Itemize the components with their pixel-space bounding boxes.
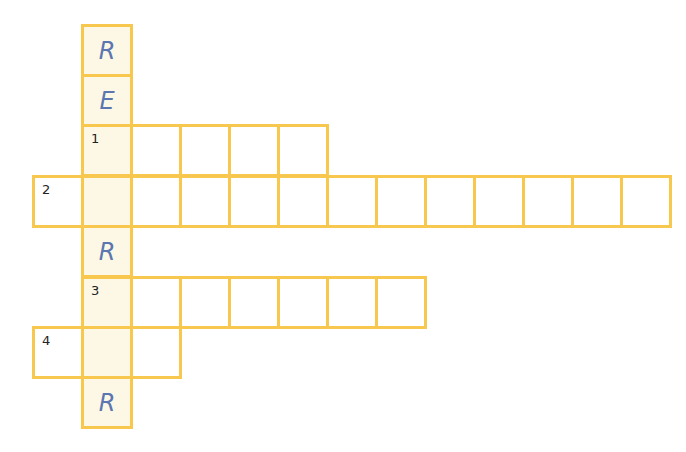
- given-letter: R: [84, 379, 130, 426]
- answer-cell[interactable]: [130, 326, 182, 379]
- given-letter: R: [84, 228, 130, 275]
- answer-cell[interactable]: [326, 276, 378, 329]
- key-column-cell[interactable]: 1: [81, 124, 133, 177]
- key-column-cell[interactable]: R: [81, 225, 133, 278]
- given-letter: E: [84, 77, 130, 124]
- answer-cell[interactable]: 2: [32, 175, 84, 228]
- answer-cell[interactable]: [424, 175, 476, 228]
- answer-cell[interactable]: [228, 276, 280, 329]
- answer-cell[interactable]: [277, 276, 329, 329]
- answer-cell[interactable]: [277, 175, 329, 228]
- key-column-cell[interactable]: 3: [81, 276, 133, 329]
- clue-number: 3: [91, 283, 99, 298]
- answer-cell[interactable]: [228, 124, 280, 177]
- answer-cell[interactable]: [375, 175, 427, 228]
- answer-cell[interactable]: [179, 124, 231, 177]
- answer-cell[interactable]: [228, 175, 280, 228]
- clue-number: 1: [91, 131, 99, 146]
- answer-cell[interactable]: [620, 175, 672, 228]
- key-column-cell[interactable]: E: [81, 74, 133, 127]
- answer-cell[interactable]: [473, 175, 525, 228]
- given-letter: R: [84, 27, 130, 74]
- clue-number: 2: [42, 182, 50, 197]
- answer-cell[interactable]: [522, 175, 574, 228]
- key-column-cell[interactable]: [81, 175, 133, 228]
- answer-cell[interactable]: [130, 124, 182, 177]
- key-column-cell[interactable]: [81, 326, 133, 379]
- key-column-cell[interactable]: R: [81, 24, 133, 77]
- answer-cell[interactable]: [571, 175, 623, 228]
- answer-cell[interactable]: 4: [32, 326, 84, 379]
- answer-cell[interactable]: [179, 276, 231, 329]
- clue-number: 4: [42, 333, 50, 348]
- answer-cell[interactable]: [130, 175, 182, 228]
- answer-cell[interactable]: [375, 276, 427, 329]
- answer-cell[interactable]: [277, 124, 329, 177]
- key-column-cell[interactable]: R: [81, 376, 133, 429]
- answer-cell[interactable]: [326, 175, 378, 228]
- answer-cell[interactable]: [130, 276, 182, 329]
- answer-cell[interactable]: [179, 175, 231, 228]
